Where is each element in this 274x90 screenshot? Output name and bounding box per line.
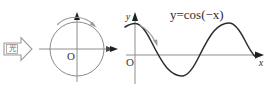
x-axis-label: x <box>258 57 264 68</box>
light-ray-block-arrow: 光 <box>4 38 32 61</box>
graph-origin-label: O <box>126 56 134 68</box>
circle-y-axis-arrowhead <box>74 12 80 20</box>
y-axis-label: y <box>125 11 131 22</box>
equation-label: y=cos(−x) <box>170 7 224 22</box>
transfer-arrow <box>110 46 118 52</box>
transfer-arrowhead <box>110 46 118 52</box>
cosine-curve <box>125 23 256 76</box>
graph-y-axis-arrowhead <box>132 12 138 21</box>
unit-circle-group: O <box>39 12 114 82</box>
light-character: 光 <box>9 43 17 53</box>
cosine-graph-group: y x O y=cos(−x) <box>125 7 264 84</box>
figure-container: 光 O <box>0 0 274 90</box>
circle-origin-label: O <box>67 50 75 62</box>
diagram-canvas: 光 O <box>0 0 274 90</box>
